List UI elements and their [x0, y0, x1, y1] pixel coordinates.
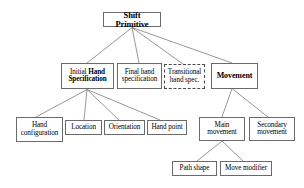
- node-initial-hand-specification[interactable]: Initial Hand Specification: [61, 63, 114, 89]
- node-path-shape-label: Path shape: [178, 165, 212, 172]
- edge-initial-hand-location: [84, 90, 87, 121]
- node-final-hand-specification-label: Final hand specification: [120, 69, 159, 84]
- edge-main-movement-move-modifier: [222, 141, 243, 161]
- node-hand-point[interactable]: Hand point: [147, 120, 187, 135]
- node-hand-configuration-label: Hand configuration: [19, 122, 60, 137]
- edge-root-transitional-hand: [132, 28, 183, 65]
- node-orientation-label: Orientation: [107, 124, 143, 131]
- edge-root-final-hand: [132, 28, 139, 64]
- edge-main-movement-path-shape: [197, 141, 222, 161]
- node-transitional-hand-spec-label: Transitional hand spec.: [166, 69, 203, 84]
- node-shift-primitive[interactable]: Shift Primitive: [103, 12, 161, 27]
- edge-initial-hand-configuration: [36, 90, 87, 118]
- node-transitional-hand-spec[interactable]: Transitional hand spec.: [164, 64, 205, 89]
- node-orientation[interactable]: Orientation: [104, 120, 145, 135]
- edge-movement-secondary-movement: [232, 89, 268, 118]
- edge-root-initial-hand: [87, 28, 132, 64]
- node-final-hand-specification[interactable]: Final hand specification: [117, 63, 162, 89]
- node-secondary-movement[interactable]: Secondary movement: [249, 117, 295, 141]
- edge-movement-main-movement: [222, 89, 232, 118]
- node-move-modifier[interactable]: Move modifier: [220, 161, 272, 176]
- edge-root-movement: [132, 28, 232, 64]
- edge-layer: [0, 0, 304, 188]
- edge-initial-hand-orientation: [87, 90, 119, 121]
- node-main-movement[interactable]: Main movement: [199, 117, 245, 141]
- node-hand-configuration[interactable]: Hand configuration: [16, 117, 63, 142]
- node-hand-point-label: Hand point: [149, 124, 184, 131]
- node-secondary-movement-label: Secondary movement: [255, 122, 289, 137]
- node-shift-primitive-label: Shift Primitive: [104, 11, 160, 28]
- node-main-movement-label: Main movement: [205, 122, 239, 137]
- node-movement-label: Movement: [215, 72, 255, 80]
- node-location-label: Location: [69, 124, 98, 131]
- edge-initial-hand-hand-point: [87, 90, 160, 121]
- node-move-modifier-label: Move modifier: [223, 165, 269, 172]
- diagram-canvas: Shift Primitive Initial Hand Specificati…: [0, 0, 304, 188]
- node-path-shape[interactable]: Path shape: [172, 161, 217, 176]
- node-location[interactable]: Location: [65, 120, 102, 135]
- node-movement[interactable]: Movement: [211, 63, 258, 89]
